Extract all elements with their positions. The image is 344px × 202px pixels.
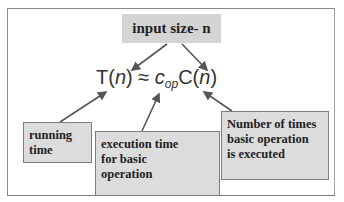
running-time-line-1: running (29, 128, 91, 143)
formula: T(n) ≈ copC(n) (96, 62, 246, 92)
number-of-times-box: Number of times basic operation is execu… (221, 111, 329, 180)
running-time-box: running time (23, 122, 92, 163)
input-size-label: input size- n (122, 14, 221, 43)
number-of-times-line-2: basic operation (227, 132, 328, 147)
formula-C: C (178, 66, 192, 88)
execution-time-line-1: execution time (101, 137, 219, 152)
execution-time-line-2: for basic (101, 152, 219, 167)
arrow-number-to-C (204, 92, 232, 111)
formula-T-arg: n (115, 66, 126, 88)
arrow-exec-to-cop (142, 94, 159, 131)
formula-c-sub: op (165, 77, 178, 91)
running-time-line-2: time (29, 143, 91, 158)
number-of-times-line-1: Number of times (227, 117, 328, 132)
formula-C-arg: n (199, 66, 210, 88)
arrow-running-to-T (60, 92, 106, 122)
number-of-times-line-3: is executed (227, 147, 328, 162)
execution-time-line-3: operation (101, 167, 219, 182)
formula-approx: ≈ (138, 66, 149, 88)
execution-time-box: execution time for basic operation (95, 131, 220, 196)
formula-c: c (155, 66, 165, 88)
formula-T: T (96, 66, 108, 88)
